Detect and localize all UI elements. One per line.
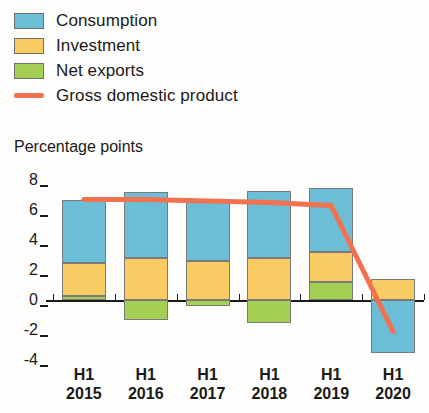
plot-area: 86420-2-4H12015H12016H12017H12018H12019H… (0, 0, 429, 413)
x-axis-tick-label: H12019 (300, 365, 362, 403)
x-axis-tick-mark (300, 294, 301, 300)
bar-segment-net-exports (186, 300, 230, 306)
zero-baseline (46, 300, 424, 302)
y-axis-tick-label: -4 (4, 351, 38, 369)
y-axis-tick-mark (40, 275, 48, 277)
bar-segment-consumption (62, 200, 106, 263)
chart-root: ConsumptionInvestmentNet exportsGross do… (0, 0, 429, 413)
x-axis-label-half: H1 (300, 365, 362, 384)
y-axis-tick-mark (40, 335, 48, 337)
bar-segment-investment (309, 252, 353, 282)
bar-segment-consumption (371, 300, 415, 353)
bar-segment-consumption (124, 192, 168, 258)
x-axis-label-year: 2016 (115, 384, 177, 403)
y-axis-tick-label: 2 (4, 261, 38, 279)
y-axis-tick-mark (40, 305, 48, 307)
x-axis-label-half: H1 (239, 365, 301, 384)
y-axis-tick-mark (40, 365, 48, 367)
x-axis-label-half: H1 (53, 365, 115, 384)
x-axis-tick-label: H12016 (115, 365, 177, 403)
y-axis-tick-mark (40, 215, 48, 217)
x-axis-tick-mark (424, 294, 425, 300)
x-axis-label-year: 2020 (362, 384, 424, 403)
bar-segment-investment (371, 279, 415, 300)
x-axis-label-year: 2019 (300, 384, 362, 403)
x-axis-tick-label: H12018 (239, 365, 301, 403)
bar-segment-investment (62, 263, 106, 296)
bar-segment-consumption (247, 191, 291, 259)
x-axis-tick-mark (53, 294, 54, 300)
y-axis-tick-label: 0 (4, 291, 38, 309)
y-axis-tick-mark (40, 245, 48, 247)
x-axis-tick-mark (115, 294, 116, 300)
x-axis-label-half: H1 (177, 365, 239, 384)
x-axis-tick-mark (362, 294, 363, 300)
bar-segment-investment (186, 261, 230, 300)
y-axis-tick-mark (40, 185, 48, 187)
x-axis-label-half: H1 (362, 365, 424, 384)
bar-segment-net-exports (247, 300, 291, 323)
y-axis-tick-label: 8 (4, 171, 38, 189)
y-axis-tick-label: -2 (4, 321, 38, 339)
bar-segment-consumption (186, 201, 230, 261)
x-axis-label-year: 2017 (177, 384, 239, 403)
y-axis-tick-label: 4 (4, 231, 38, 249)
bar-segment-net-exports (62, 296, 106, 301)
y-axis-tick-label: 6 (4, 201, 38, 219)
x-axis-tick-label: H12017 (177, 365, 239, 403)
x-axis-tick-mark (239, 294, 240, 300)
x-axis-tick-label: H12015 (53, 365, 115, 403)
bar-segment-investment (124, 258, 168, 300)
bar-segment-net-exports (309, 282, 353, 300)
bar-segment-investment (247, 258, 291, 300)
x-axis-label-year: 2018 (239, 384, 301, 403)
bar-segment-net-exports (124, 300, 168, 320)
x-axis-label-half: H1 (115, 365, 177, 384)
x-axis-label-year: 2015 (53, 384, 115, 403)
bar-segment-consumption (309, 188, 353, 253)
x-axis-tick-label: H12020 (362, 365, 424, 403)
x-axis-tick-mark (177, 294, 178, 300)
